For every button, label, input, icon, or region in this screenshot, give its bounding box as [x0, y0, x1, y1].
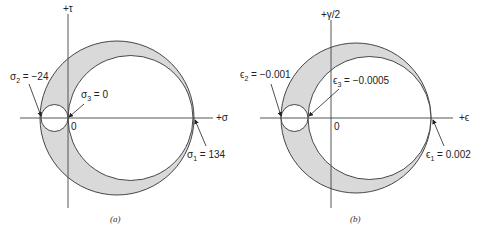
origin-label-b: 0 [334, 121, 340, 132]
sigma1-arrow [195, 120, 206, 146]
panel-a: +σ +τ 0 σ2 = −24 σ3 = 0 σ1 = 134 (a) [10, 3, 229, 224]
sigma2-label: σ2 = −24 [10, 71, 49, 84]
caption-a: (a) [110, 214, 121, 224]
epsilon-axis-label: +ϵ [459, 112, 470, 123]
sigma2-arrow [29, 84, 41, 116]
sigma1-label: σ1 = 134 [187, 149, 226, 162]
mohr-circle-figure: +σ +τ 0 σ2 = −24 σ3 = 0 σ1 = 134 (a) +ϵ … [0, 0, 479, 235]
caption-b: (b) [350, 214, 361, 224]
eps2-arrow [271, 84, 281, 116]
gamma-axis-label: +γ/2 [321, 9, 341, 20]
eps1-label: ϵ1 = 0.002 [426, 149, 471, 162]
tau-axis-label: +τ [63, 3, 73, 14]
sigma-axis-label: +σ [216, 112, 229, 123]
origin-label-a: 0 [71, 121, 77, 132]
eps2-label: ϵ2 = −0.001 [240, 69, 291, 82]
eps1-arrow [433, 120, 444, 146]
panel-b: +ϵ +γ/2 0 ϵ2 = −0.001 ϵ3 = −0.0005 ϵ1 = … [240, 9, 471, 224]
